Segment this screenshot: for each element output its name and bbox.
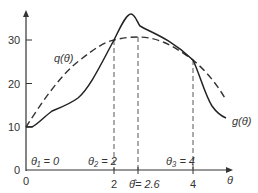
x-tick-2: 2 — [111, 178, 117, 190]
theta2-label: θ₂ = 2 — [88, 155, 117, 167]
y-tick-10: 10 — [8, 121, 20, 133]
y-tick-20: 20 — [8, 78, 20, 90]
q-curve-label: q(θ) — [54, 52, 74, 64]
guide-lines — [114, 37, 193, 170]
x-tick-4: 4 — [190, 178, 196, 190]
x-tick-theta-hat: θ̂= 2.6 — [129, 178, 161, 190]
theta3-label: θ₃ = 4 — [166, 155, 195, 167]
x-axis-label: θ — [227, 174, 233, 186]
g-curve — [26, 14, 226, 127]
chart: 30 20 10 0 0 2 θ̂= 2.6 4 θ q(θ) g(θ) θ₁ … — [0, 0, 258, 193]
g-curve-label: g(θ) — [232, 115, 252, 127]
x-tick-0: 0 — [23, 175, 29, 187]
y-axis-arrow-icon — [23, 10, 29, 17]
y-ticks — [26, 40, 32, 127]
q-curve — [26, 37, 226, 127]
x-axis-arrow-icon — [226, 167, 233, 173]
theta1-label: θ₁ = 0 — [31, 155, 60, 167]
y-tick-0: 0 — [14, 164, 20, 176]
y-tick-30: 30 — [8, 34, 20, 46]
